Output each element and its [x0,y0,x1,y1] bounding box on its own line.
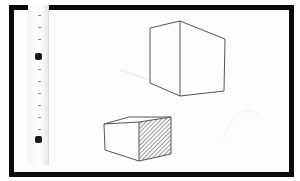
hatched-face [139,117,171,161]
sketch-drawing [0,0,300,181]
guide-line [120,70,150,80]
guide-arc [223,110,262,140]
lower-cube [104,117,171,161]
upper-cube [150,21,225,96]
